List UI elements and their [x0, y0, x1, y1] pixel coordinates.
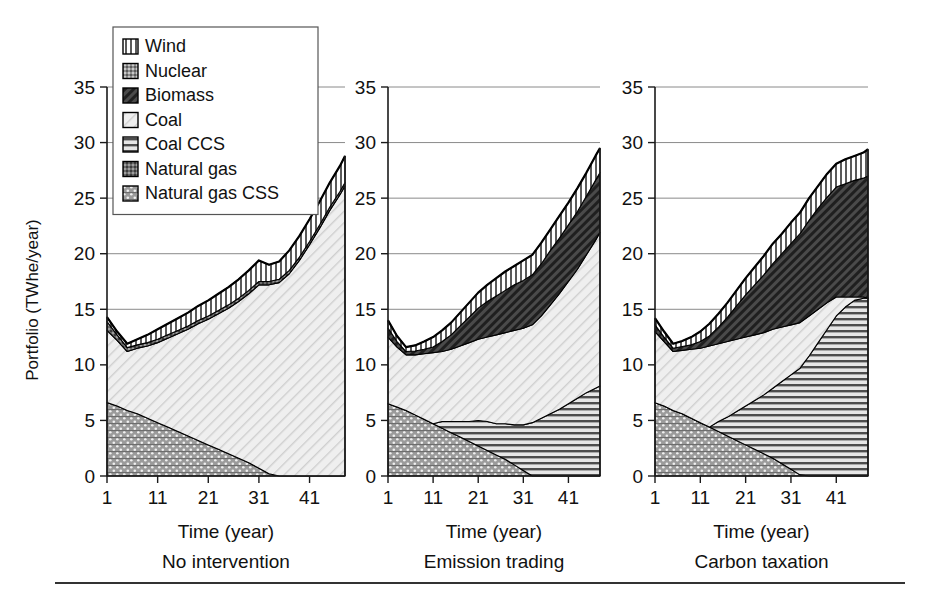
panel-caption-emission-trading: Emission trading: [424, 551, 564, 572]
y-tick-label-10: 10: [355, 354, 376, 375]
x-tick-label-1: 1: [102, 487, 113, 508]
y-axis-label: Portfolio (TWhe/year): [23, 219, 42, 381]
legend-swatch-natural-gas: [123, 162, 138, 177]
legend-item-nuclear[interactable]: Nuclear: [123, 61, 207, 81]
panel-caption-no-intervention: No intervention: [162, 551, 290, 572]
y-tick-label-15: 15: [355, 299, 376, 320]
y-tick-label-25: 25: [355, 188, 376, 209]
y-tick-label-5: 5: [365, 410, 376, 431]
y-axis-label-text: Portfolio (TWhe/year): [23, 219, 42, 381]
x-tick-label-1: 1: [650, 487, 661, 508]
panel-caption-carbon-taxation: Carbon taxation: [694, 551, 828, 572]
x-tick-label-11: 11: [690, 487, 710, 508]
x-tick-label-31: 31: [248, 487, 269, 508]
legend-item-wind[interactable]: Wind: [123, 36, 186, 56]
y-tick-label-35: 35: [355, 77, 376, 98]
x-tick-label-11: 11: [148, 487, 168, 508]
y-tick-label-0: 0: [365, 466, 376, 487]
x-tick-label-21: 21: [198, 487, 219, 508]
y-tick-label-10: 10: [622, 354, 643, 375]
figure-root: Portfolio (TWhe/year) 051015202530351112…: [0, 0, 931, 605]
x-tick-label-41: 41: [826, 487, 847, 508]
legend-label-coal: Coal: [145, 110, 182, 130]
x-tick-label-41: 41: [299, 487, 320, 508]
chart-legend: WindNuclearBiomassCoalCoal CCSNatural ga…: [113, 27, 318, 215]
y-tick-label-0: 0: [84, 466, 95, 487]
legend-item-biomass[interactable]: Biomass: [123, 85, 214, 105]
y-tick-label-5: 5: [632, 410, 643, 431]
x-tick-label-21: 21: [735, 487, 756, 508]
y-tick-label-30: 30: [622, 132, 643, 153]
legend-item-coal-ccs[interactable]: Coal CCS: [123, 134, 225, 154]
x-tick-label-31: 31: [513, 487, 534, 508]
legend-swatch-natural-gas-css: [123, 186, 138, 201]
x-axis-title-no-intervention: Time (year): [178, 521, 274, 542]
y-tick-label-20: 20: [622, 243, 643, 264]
legend-swatch-biomass: [123, 88, 138, 103]
legend-swatch-coal: [123, 113, 138, 128]
legend-label-coal-ccs: Coal CCS: [145, 134, 225, 154]
y-tick-label-20: 20: [355, 243, 376, 264]
y-tick-label-25: 25: [74, 188, 95, 209]
x-axis-title-emission-trading: Time (year): [446, 521, 542, 542]
legend-item-coal[interactable]: Coal: [123, 110, 182, 130]
legend-swatch-wind: [123, 39, 138, 54]
legend-label-biomass: Biomass: [145, 85, 214, 105]
y-tick-label-10: 10: [74, 354, 95, 375]
x-tick-label-11: 11: [423, 487, 443, 508]
legend-label-nuclear: Nuclear: [145, 61, 207, 81]
x-axis-title-carbon-taxation: Time (year): [713, 521, 809, 542]
legend-label-natural-gas: Natural gas: [145, 159, 237, 179]
x-tick-label-21: 21: [468, 487, 489, 508]
y-tick-label-30: 30: [74, 132, 95, 153]
y-tick-label-35: 35: [622, 77, 643, 98]
y-tick-label-20: 20: [74, 243, 95, 264]
y-tick-label-25: 25: [622, 188, 643, 209]
x-tick-label-41: 41: [558, 487, 579, 508]
x-tick-label-1: 1: [383, 487, 394, 508]
y-tick-label-0: 0: [632, 466, 643, 487]
x-tick-label-31: 31: [780, 487, 801, 508]
legend-swatch-nuclear: [123, 64, 138, 79]
y-tick-label-15: 15: [622, 299, 643, 320]
y-tick-label-15: 15: [74, 299, 95, 320]
legend-swatch-coal-ccs: [123, 137, 138, 152]
y-tick-label-35: 35: [74, 77, 95, 98]
y-tick-label-5: 5: [84, 410, 95, 431]
legend-label-natural-gas-css: Natural gas CSS: [145, 183, 279, 203]
legend-item-natural-gas-css[interactable]: Natural gas CSS: [123, 183, 279, 203]
legend-label-wind: Wind: [145, 36, 186, 56]
y-tick-label-30: 30: [355, 132, 376, 153]
